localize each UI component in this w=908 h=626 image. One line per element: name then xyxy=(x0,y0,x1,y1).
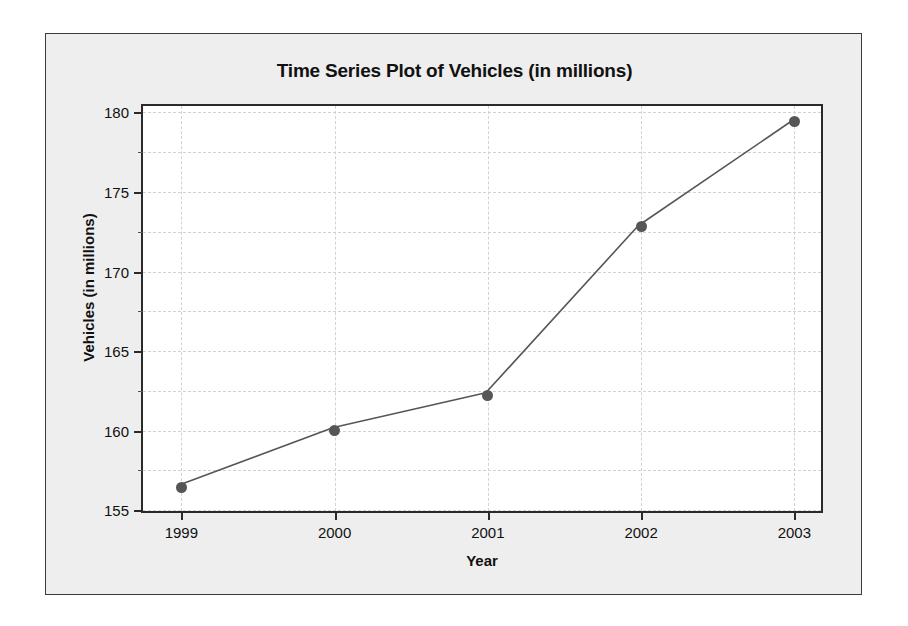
y-tick-label: 180 xyxy=(104,104,129,121)
y-tick-minor xyxy=(138,152,143,153)
y-tick-label: 165 xyxy=(104,343,129,360)
y-tick-label: 160 xyxy=(104,422,129,439)
x-tick-major xyxy=(641,511,643,520)
y-tick-minor xyxy=(138,391,143,392)
x-tick-label: 2002 xyxy=(624,524,657,541)
x-tick-label: 2000 xyxy=(318,524,351,541)
x-tick-label: 1999 xyxy=(165,524,198,541)
y-tick-major xyxy=(134,510,143,512)
y-tick-label: 175 xyxy=(104,183,129,200)
x-tick-major xyxy=(335,511,337,520)
y-tick-major xyxy=(134,192,143,194)
series-line xyxy=(143,106,821,511)
plot-area: 155160165170175180 19992000200120022003 xyxy=(141,104,823,513)
y-tick-label: 170 xyxy=(104,263,129,280)
y-tick-minor xyxy=(138,311,143,312)
x-axis-title: Year xyxy=(141,552,823,569)
chart-figure-frame: Time Series Plot of Vehicles (in million… xyxy=(45,33,862,595)
y-tick-major xyxy=(134,351,143,353)
y-tick-minor xyxy=(138,470,143,471)
x-tick-major xyxy=(794,511,796,520)
x-tick-major xyxy=(488,511,490,520)
plot-inner xyxy=(143,106,821,511)
y-tick-major xyxy=(134,272,143,274)
y-tick-major xyxy=(134,112,143,114)
x-tick-major xyxy=(181,511,183,520)
x-tick-label: 2001 xyxy=(471,524,504,541)
x-tick-label: 2003 xyxy=(778,524,811,541)
y-tick-label: 155 xyxy=(104,502,129,519)
y-axis-title: Vehicles (in millions) xyxy=(80,188,97,388)
y-tick-major xyxy=(134,431,143,433)
data-point xyxy=(636,221,647,232)
y-tick-minor xyxy=(138,232,143,233)
chart-title: Time Series Plot of Vehicles (in million… xyxy=(46,60,863,82)
